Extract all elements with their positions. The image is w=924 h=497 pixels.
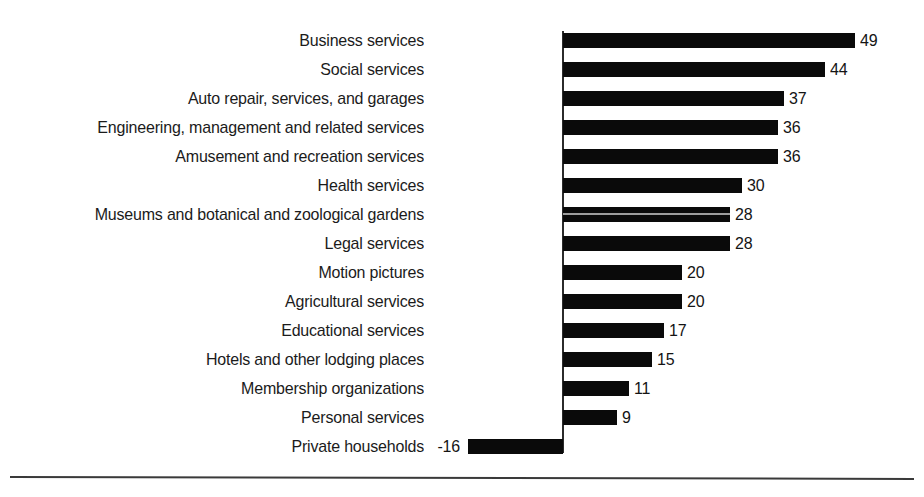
bar (563, 265, 682, 280)
bar (468, 439, 563, 454)
category-label: Amusement and recreation services (25, 149, 424, 164)
bar-row: Museums and botanical and zoological gar… (0, 207, 924, 222)
category-label: Auto repair, services, and garages (25, 91, 424, 106)
bar-value-label: 37 (789, 91, 806, 106)
bar-row: Amusement and recreation services36 (0, 149, 924, 164)
category-label: Social services (25, 62, 424, 77)
bar-row: Social services44 (0, 62, 924, 77)
plot-area: Business services49Social services44Auto… (0, 0, 924, 460)
bar-row: Motion pictures20 (0, 265, 924, 280)
bar-value-label: 30 (747, 178, 764, 193)
category-label: Engineering, management and related serv… (25, 120, 424, 135)
bar (563, 149, 778, 164)
bar-row: Engineering, management and related serv… (0, 120, 924, 135)
bottom-rule-divider (10, 476, 914, 480)
bar-row: Health services30 (0, 178, 924, 193)
bar (563, 352, 652, 367)
category-label: Business services (25, 33, 424, 48)
bar-value-label: -16 (411, 439, 460, 454)
category-label: Hotels and other lodging places (25, 352, 424, 367)
bar-value-label: 11 (634, 381, 650, 396)
bar-row: Personal services9 (0, 410, 924, 425)
bar (563, 91, 784, 106)
category-label: Motion pictures (25, 265, 424, 280)
bar-value-label: 44 (830, 62, 847, 77)
bar-row: Auto repair, services, and garages37 (0, 91, 924, 106)
bar-chart: Business services49Social services44Auto… (0, 0, 924, 497)
category-label: Educational services (25, 323, 424, 338)
bar-row: Private households-16 (0, 439, 924, 454)
bar-value-label: 9 (622, 410, 631, 425)
bar-value-label: 28 (735, 236, 752, 251)
bar (563, 62, 825, 77)
bar-value-label: 17 (669, 323, 686, 338)
bar (563, 294, 682, 309)
category-label: Museums and botanical and zoological gar… (25, 207, 424, 222)
category-label: Membership organizations (25, 381, 424, 396)
bar-value-label: 20 (687, 265, 704, 280)
bar-value-label: 15 (657, 352, 674, 367)
bar (563, 323, 664, 338)
bar-value-label: 20 (687, 294, 704, 309)
category-label: Personal services (25, 410, 424, 425)
bar (563, 178, 742, 193)
bar-row: Agricultural services20 (0, 294, 924, 309)
bar-row: Legal services28 (0, 236, 924, 251)
category-label: Private households (25, 439, 424, 454)
bar-value-label: 36 (783, 149, 800, 164)
bar-row: Membership organizations11 (0, 381, 924, 396)
category-label: Health services (25, 178, 424, 193)
bar (563, 410, 617, 425)
category-label: Agricultural services (25, 294, 424, 309)
bar-row: Business services49 (0, 33, 924, 48)
bar-value-label: 28 (735, 207, 752, 222)
bar (563, 381, 629, 396)
bar (563, 236, 730, 251)
category-label: Legal services (25, 236, 424, 251)
bar-value-label: 36 (783, 120, 800, 135)
bar-value-label: 49 (860, 33, 877, 48)
bar-row: Educational services17 (0, 323, 924, 338)
bar (563, 207, 730, 222)
bar (563, 33, 855, 48)
bar-row: Hotels and other lodging places15 (0, 352, 924, 367)
bar (563, 120, 778, 135)
